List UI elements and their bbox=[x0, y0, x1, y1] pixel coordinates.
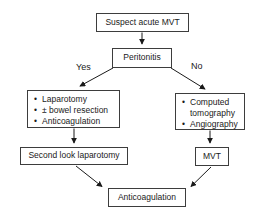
node-mvt: MVT bbox=[195, 147, 229, 166]
node-surgical-branch: Laparotomy ± bowel resection Anticoagula… bbox=[27, 90, 120, 128]
list-item: Anticoagulation bbox=[32, 116, 117, 127]
arrow-secondlook-to-anticoag bbox=[76, 166, 102, 187]
arrow-mvt-to-anticoag bbox=[191, 167, 211, 187]
flowchart: Suspect acute MVT Peritonitis Yes No Lap… bbox=[0, 0, 258, 216]
node-suspect-acute-mvt-label: Suspect acute MVT bbox=[105, 18, 179, 27]
edge-label-no: No bbox=[191, 61, 203, 71]
imaging-branch-list: Computed tomography Angiography bbox=[180, 97, 242, 130]
list-item: ± bowel resection bbox=[32, 105, 117, 116]
list-item: Computed tomography bbox=[180, 97, 242, 119]
node-mvt-label: MVT bbox=[203, 152, 221, 161]
node-suspect-acute-mvt: Suspect acute MVT bbox=[96, 13, 189, 32]
list-item: Laparotomy bbox=[32, 94, 117, 105]
surgical-branch-list: Laparotomy ± bowel resection Anticoagula… bbox=[32, 94, 117, 127]
node-anticoagulation-label: Anticoagulation bbox=[118, 193, 176, 202]
node-imaging-branch: Computed tomography Angiography bbox=[175, 93, 245, 130]
arrow-no-branch bbox=[171, 68, 205, 89]
node-peritonitis-label: Peritonitis bbox=[123, 53, 160, 62]
node-second-look-laparotomy: Second look laparotomy bbox=[20, 147, 128, 165]
node-anticoagulation: Anticoagulation bbox=[108, 188, 186, 207]
list-item: Angiography bbox=[180, 119, 242, 130]
node-second-look-laparotomy-label: Second look laparotomy bbox=[28, 151, 119, 160]
node-peritonitis: Peritonitis bbox=[112, 48, 172, 68]
edge-label-yes: Yes bbox=[76, 62, 91, 72]
